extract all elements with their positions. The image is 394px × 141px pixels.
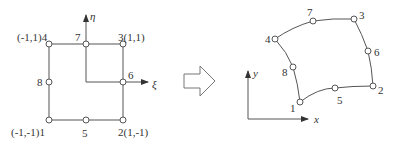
physical-node-1 xyxy=(297,99,303,105)
parent-node-8-label: 8 xyxy=(37,76,43,88)
parent-node-6 xyxy=(120,79,126,85)
parent-node-7-label: 7 xyxy=(75,31,81,43)
physical-node-3-label: 3 xyxy=(359,9,365,21)
parent-node-8 xyxy=(46,79,52,85)
physical-node-2-label: 2 xyxy=(378,84,384,96)
physical-node-8-label: 8 xyxy=(282,66,288,78)
physical-node-1-label: 1 xyxy=(290,102,296,114)
physical-node-5-label: 5 xyxy=(337,94,343,106)
parent-node-2-label: 2(1,-1) xyxy=(118,126,149,139)
physical-node-7-label: 7 xyxy=(307,6,313,18)
physical-element: y x 1 2 3 4 5 6 7 8 xyxy=(248,6,384,125)
physical-node-4 xyxy=(272,36,278,42)
physical-node-6 xyxy=(365,48,371,54)
parent-node-2 xyxy=(120,117,126,123)
physical-node-5 xyxy=(332,85,338,91)
physical-node-3 xyxy=(351,16,357,22)
x-axis-label: x xyxy=(313,113,319,125)
xi-axis-label: ξ xyxy=(152,78,157,91)
parent-node-6-label: 6 xyxy=(128,69,134,81)
parent-node-1-label: (-1,-1)1 xyxy=(11,126,45,139)
parent-node-5-label: 5 xyxy=(82,127,88,139)
parent-node-5 xyxy=(83,117,89,123)
eta-axis-label: η xyxy=(90,10,95,22)
y-axis-label: y xyxy=(252,67,258,79)
isoparametric-mapping-diagram: η ξ (-1,-1)1 2(1,-1) 3(1,1) (-1,1)4 5 6 … xyxy=(0,0,394,141)
parent-element: η ξ (-1,-1)1 2(1,-1) 3(1,1) (-1,1)4 5 6 … xyxy=(11,10,157,139)
physical-node-6-label: 6 xyxy=(374,46,380,58)
parent-node-3-label: 3(1,1) xyxy=(118,31,145,44)
parent-node-1 xyxy=(46,117,52,123)
physical-node-2 xyxy=(370,83,376,89)
parent-node-7 xyxy=(83,41,89,47)
physical-node-4-label: 4 xyxy=(265,33,271,45)
edge-4-8-1 xyxy=(275,39,300,102)
physical-node-8 xyxy=(290,64,296,70)
physical-node-7 xyxy=(310,18,316,24)
right-arrow-icon xyxy=(184,66,215,96)
parent-node-4-label: (-1,1)4 xyxy=(17,31,48,44)
